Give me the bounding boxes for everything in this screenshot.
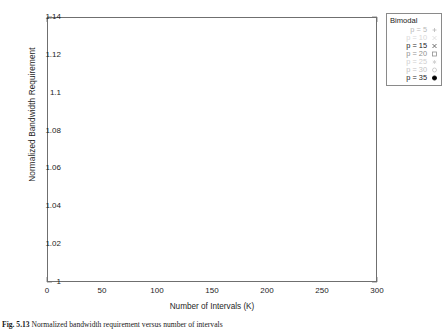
y-tick-label: 1.02 — [23, 239, 61, 248]
y-tick-label: 1.14 — [23, 12, 61, 21]
x-tick-label: 150 — [192, 286, 232, 295]
cross-marker — [430, 34, 439, 42]
figure-container: Normalized Bandwidth Requirement Number … — [0, 0, 443, 333]
filled-circle-marker — [430, 74, 439, 82]
x-axis-label: Number of Intervals (K) — [47, 302, 377, 311]
x-tick-label: 250 — [302, 286, 342, 295]
x-tick-label: 300 — [357, 286, 397, 295]
y-tick-label: 1.06 — [23, 163, 61, 172]
x-tick-label: 200 — [247, 286, 287, 295]
legend: Bimodal p = 5p = 10p = 15p = 20p = 25p =… — [386, 13, 442, 86]
legend-title: Bimodal — [390, 16, 439, 25]
legend-entry-label: p = 35 — [406, 74, 427, 82]
legend-entries: p = 5p = 10p = 15p = 20p = 25p = 30p = 3… — [390, 26, 439, 82]
y-tick-label: 1 — [23, 277, 61, 286]
y-tick-label: 1.1 — [23, 88, 61, 97]
caption-label: Fig. 5.13 — [2, 320, 30, 329]
y-axis-label: Normalized Bandwidth Requirement — [28, 0, 37, 235]
legend-entry[interactable]: p = 35 — [390, 74, 439, 82]
y-tick-label: 1.08 — [23, 126, 61, 135]
y-tick-label: 1.04 — [23, 201, 61, 210]
plus-marker — [430, 26, 439, 34]
open-square-marker — [430, 50, 439, 58]
x-tick-label: 100 — [137, 286, 177, 295]
y-tick-label: 1.12 — [23, 50, 61, 59]
asterisk-marker — [430, 58, 439, 66]
figure-caption: Fig. 5.13 Normalized bandwidth requireme… — [2, 320, 440, 329]
x-tick-label: 0 — [27, 286, 67, 295]
x-marker — [430, 42, 439, 50]
open-circle-marker — [430, 66, 439, 74]
caption-text: Normalized bandwidth requirement versus … — [32, 320, 223, 329]
plot-area — [47, 17, 377, 282]
x-tick-label: 50 — [82, 286, 122, 295]
